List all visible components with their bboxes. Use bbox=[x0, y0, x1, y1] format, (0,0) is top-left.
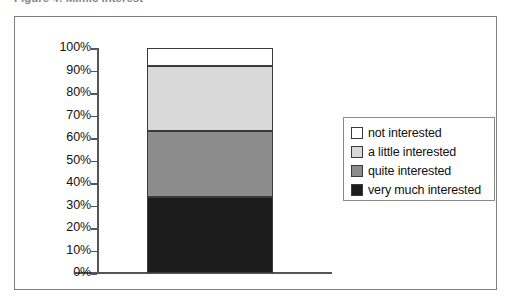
y-axis-tick-mark bbox=[91, 93, 97, 95]
y-axis-tick: 90% bbox=[15, 71, 105, 72]
y-axis-tick-mark bbox=[91, 48, 97, 50]
y-axis-tick-label: 90% bbox=[66, 63, 91, 77]
y-axis-tick-label: 30% bbox=[66, 198, 91, 212]
y-axis-tick-label: 80% bbox=[66, 85, 91, 99]
legend-swatch-icon bbox=[351, 146, 363, 158]
y-axis-tick-label: 0% bbox=[73, 265, 91, 279]
y-axis-tick-label: 60% bbox=[66, 130, 91, 144]
y-axis-tick-mark bbox=[91, 206, 97, 208]
y-axis-tick: 30% bbox=[15, 206, 105, 207]
y-axis-tick-mark bbox=[91, 161, 97, 163]
legend-swatch-icon bbox=[351, 165, 363, 177]
y-axis-tick: 50% bbox=[15, 161, 105, 162]
legend-item: a little interested bbox=[351, 142, 494, 161]
bar-segment bbox=[147, 131, 273, 196]
y-axis-tick: 70% bbox=[15, 116, 105, 117]
y-axis-tick-mark bbox=[91, 228, 97, 230]
bar-segment bbox=[147, 197, 273, 274]
stacked-bar bbox=[147, 48, 273, 273]
bar-segment bbox=[147, 48, 273, 66]
legend-item-label: quite interested bbox=[368, 164, 451, 178]
y-axis-tick: 0% bbox=[15, 273, 105, 274]
y-axis-tick: 60% bbox=[15, 138, 105, 139]
y-axis-tick-mark bbox=[91, 273, 97, 275]
y-axis-tick-label: 100% bbox=[59, 40, 91, 54]
legend-swatch-icon bbox=[351, 127, 363, 139]
figure-caption: Figure 4: Mimic interest bbox=[14, 0, 314, 5]
figure-frame: 0%10%20%30%40%50%60%70%80%90%100% not in… bbox=[14, 16, 497, 290]
legend-item: very much interested bbox=[351, 180, 494, 199]
y-axis-tick-mark bbox=[91, 71, 97, 73]
chart-legend: not interesteda little interestedquite i… bbox=[343, 117, 495, 201]
y-axis-tick: 10% bbox=[15, 251, 105, 252]
y-axis-tick: 80% bbox=[15, 93, 105, 94]
legend-item-label: very much interested bbox=[368, 183, 481, 197]
y-axis-tick: 20% bbox=[15, 228, 105, 229]
legend-item-label: not interested bbox=[368, 126, 442, 140]
y-axis-tick-label: 50% bbox=[66, 153, 91, 167]
y-axis-tick-label: 70% bbox=[66, 108, 91, 122]
y-axis-tick-mark bbox=[91, 251, 97, 253]
legend-item: not interested bbox=[351, 123, 494, 142]
y-axis-tick: 40% bbox=[15, 183, 105, 184]
y-axis-tick-label: 40% bbox=[66, 175, 91, 189]
y-axis-tick: 100% bbox=[15, 48, 105, 49]
y-axis-tick-mark bbox=[91, 138, 97, 140]
y-axis-tick-label: 20% bbox=[66, 220, 91, 234]
y-axis-tick-mark bbox=[91, 183, 97, 185]
figure-caption-text: Figure 4: Mimic interest bbox=[14, 0, 314, 5]
bar-segment bbox=[147, 66, 273, 131]
legend-item-label: a little interested bbox=[368, 145, 456, 159]
chart-screenshot: Figure 4: Mimic interest 0%10%20%30%40%5… bbox=[0, 0, 521, 303]
legend-item: quite interested bbox=[351, 161, 494, 180]
legend-swatch-icon bbox=[351, 184, 363, 196]
y-axis-tick-label: 10% bbox=[66, 243, 91, 257]
y-axis-tick-mark bbox=[91, 116, 97, 118]
